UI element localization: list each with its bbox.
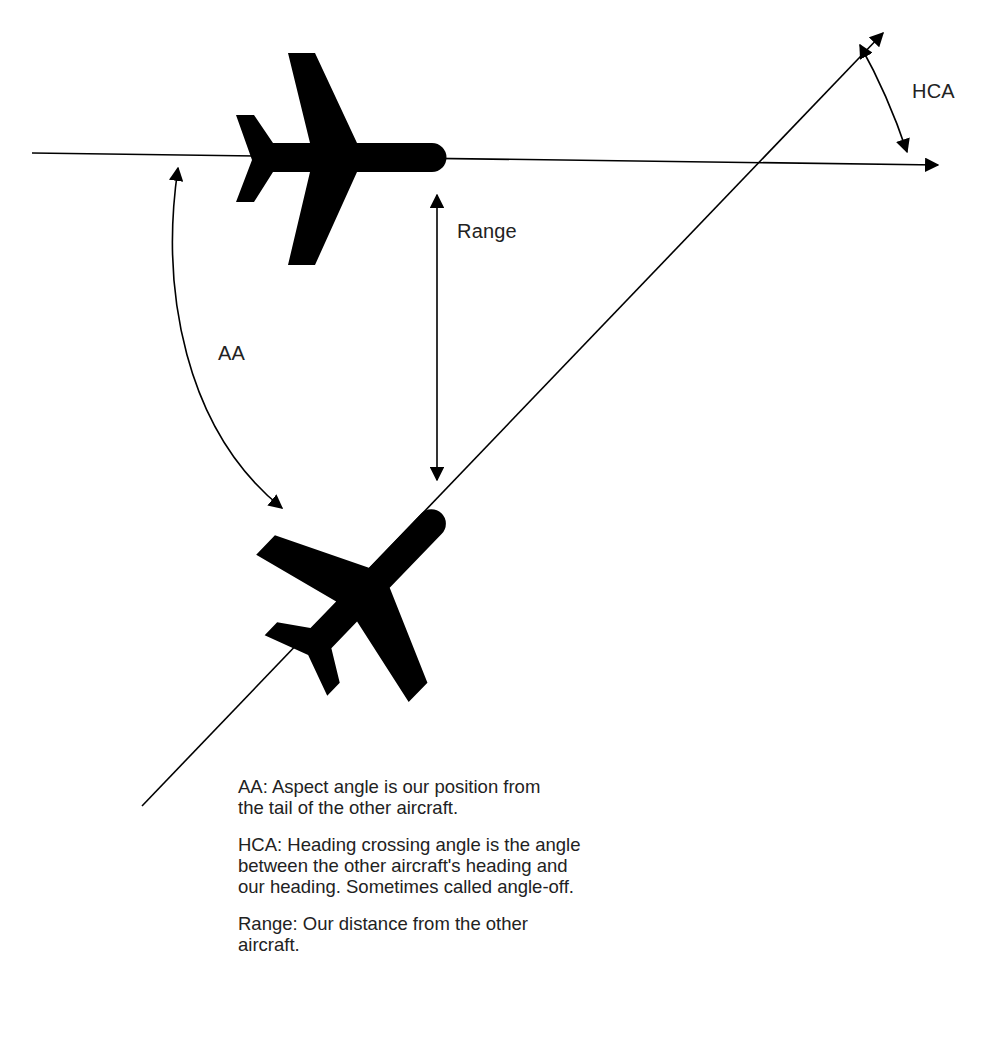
other-aircraft-heading-line (32, 153, 938, 165)
aa-arc-arrow (173, 168, 282, 508)
legend: AA: Aspect angle is our position from th… (238, 776, 678, 971)
hca-label: HCA (912, 80, 955, 103)
range-label: Range (457, 220, 517, 243)
hca-arc-arrow (860, 45, 907, 152)
airplane-silhouette-icon (236, 53, 447, 265)
aa-label: AA (218, 342, 245, 365)
legend-range-definition: Range: Our distance from the other aircr… (238, 913, 538, 955)
airplane-silhouette-icon (220, 441, 519, 740)
legend-hca-definition: HCA: Heading crossing angle is the angle… (238, 834, 583, 897)
legend-aa-definition: AA: Aspect angle is our position from th… (238, 776, 568, 818)
